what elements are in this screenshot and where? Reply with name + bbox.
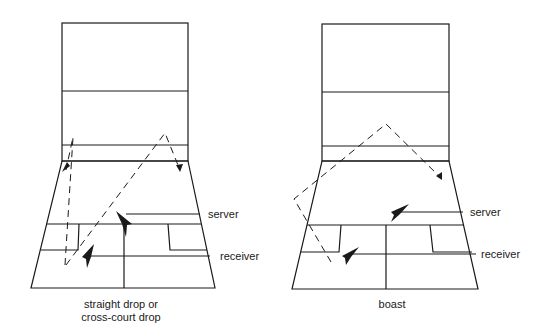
boast-path bbox=[294, 124, 441, 262]
boast-arrowhead bbox=[436, 172, 442, 180]
receiver-label: receiver bbox=[481, 248, 520, 260]
service-box-left bbox=[41, 224, 79, 250]
front-wall bbox=[62, 23, 188, 161]
front-wall bbox=[322, 24, 449, 161]
service-box-left bbox=[301, 225, 341, 252]
court-floor bbox=[292, 161, 478, 289]
receiver-label: receiver bbox=[220, 250, 259, 262]
server-arrow-icon bbox=[391, 204, 409, 222]
server-label: server bbox=[470, 206, 501, 218]
front-wall-outline bbox=[62, 23, 188, 161]
caption-line-1: straight drop or bbox=[84, 298, 158, 310]
service-box-right bbox=[430, 225, 472, 252]
straight-drop-path bbox=[65, 137, 73, 265]
caption-line-2: cross-court drop bbox=[81, 311, 160, 323]
panel-boast: server receiver boast bbox=[292, 24, 520, 310]
players bbox=[342, 204, 476, 265]
squash-court-diagram: server receiver straight drop or cross-c… bbox=[0, 0, 543, 331]
shot-paths bbox=[62, 133, 183, 265]
shot-paths bbox=[294, 124, 442, 262]
cross-court-arrowhead bbox=[176, 164, 183, 172]
server-label: server bbox=[208, 208, 239, 220]
cross-court-drop-path bbox=[66, 133, 180, 265]
receiver-arrow-icon bbox=[342, 247, 359, 265]
players bbox=[82, 211, 210, 268]
straight-drop-arrowhead bbox=[62, 162, 70, 172]
caption-line-1: boast bbox=[379, 298, 406, 310]
panel-straight-drop: server receiver straight drop or cross-c… bbox=[31, 23, 259, 323]
service-box-right bbox=[168, 224, 207, 250]
